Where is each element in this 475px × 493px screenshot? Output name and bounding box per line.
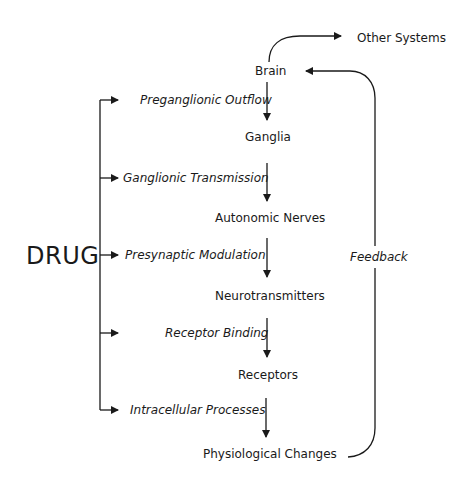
arrow-brain-other-systems: [269, 36, 341, 62]
process-receptor-binding: Receptor Binding: [165, 326, 268, 340]
process-ganglionic-transmission: Ganglionic Transmission: [123, 171, 269, 185]
process-preganglionic-outflow: Preganglionic Outflow: [140, 93, 272, 107]
feedback-label: Feedback: [350, 250, 408, 264]
drug-label: DRUG: [26, 243, 99, 269]
node-other-systems: Other Systems: [357, 31, 446, 45]
process-presynaptic-modulation: Presynaptic Modulation: [125, 248, 266, 262]
node-autonomic-nerves: Autonomic Nerves: [215, 211, 325, 225]
node-neurotransmitters: Neurotransmitters: [215, 289, 325, 303]
node-physiological-changes: Physiological Changes: [203, 447, 337, 461]
node-ganglia: Ganglia: [245, 130, 291, 144]
feedback-line-lower: [348, 268, 375, 457]
node-receptors: Receptors: [238, 368, 298, 382]
process-intracellular-processes: Intracellular Processes: [130, 403, 265, 417]
node-brain: Brain: [255, 64, 286, 78]
